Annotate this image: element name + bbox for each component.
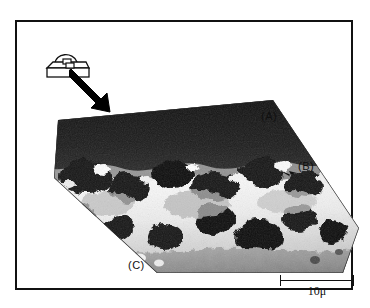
label-a: (A) <box>261 110 277 122</box>
label-b: (B) <box>298 160 314 172</box>
label-b-pointer-arrow-icon <box>279 164 297 174</box>
figure-root: (A) (B) (C) 10μ <box>0 0 370 308</box>
label-c: (C) <box>128 259 145 271</box>
sem-micrograph-svg <box>47 92 367 287</box>
film-grain-overlay <box>47 92 367 287</box>
label-b-pointer-svg <box>279 168 297 178</box>
figure-border-frame: (A) (B) (C) 10μ <box>15 20 353 290</box>
scale-bar-label: 10μ <box>280 284 354 299</box>
scale-bar-line <box>280 280 354 281</box>
specimen-surface <box>47 92 367 287</box>
scale-bar: 10μ <box>280 274 356 296</box>
sem-micrograph <box>47 92 367 287</box>
label-b-arrow-glyph <box>279 170 297 177</box>
